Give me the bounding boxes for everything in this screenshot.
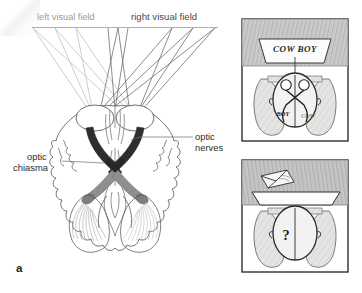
blank-screen <box>252 192 340 205</box>
left-eye <box>281 80 291 90</box>
label-optic-chiasma-line1: optic <box>27 152 47 162</box>
hemisphere-text-boy: BOY <box>276 110 291 117</box>
screen-text-cowboy: COW BOY <box>273 44 318 54</box>
hemisphere-text-cow: COW <box>301 112 316 119</box>
label-optic-nerves-line2: nerves <box>195 143 223 153</box>
panel-letter-a: a <box>16 262 22 274</box>
label-right-visual-field: right visual field <box>131 12 197 22</box>
label-optic-nerves-line1: optic <box>195 132 215 142</box>
figure-visual-pathway: left visual field right visual field opt… <box>0 0 362 293</box>
panel-b-drawing: COW BOY <box>228 0 362 293</box>
panel-a: left visual field right visual field opt… <box>0 0 230 293</box>
panel-b-bottom-sketch: ? <box>242 160 348 272</box>
panel-b: COW BOY <box>228 0 362 293</box>
label-left-visual-field: left visual field <box>37 13 95 23</box>
right-eye <box>299 80 309 90</box>
label-optic-chiasma-line2: chiasma <box>13 163 48 173</box>
head-question-mark: ? <box>282 227 290 243</box>
panel-b-top-sketch: COW BOY <box>242 19 348 141</box>
